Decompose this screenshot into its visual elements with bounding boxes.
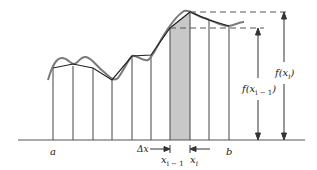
- label-a: a: [50, 146, 56, 157]
- trapezoid-polyline: [53, 12, 229, 80]
- delta-x-arrows: [150, 145, 210, 153]
- partition-lines: [53, 12, 229, 140]
- function-curve: [48, 11, 244, 80]
- label-b: b: [226, 146, 232, 157]
- label-delta-x: Δx: [136, 144, 149, 154]
- label-f-xi: f(xi): [274, 67, 295, 81]
- f-xi-1-arrow: [256, 28, 261, 140]
- label-x-i: xi: [190, 154, 198, 168]
- trapezoid-rule-diagram: a b Δx xi − 1 xi f(xi) f(xi − 1): [0, 0, 317, 170]
- shaded-trapezoid: [170, 12, 190, 140]
- label-f-xi-1: f(xi − 1): [241, 83, 276, 97]
- label-x-i-minus-1: xi − 1: [161, 154, 184, 168]
